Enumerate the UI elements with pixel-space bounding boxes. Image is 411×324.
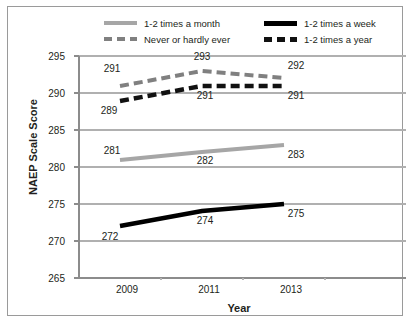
x-tick-label: 2011 [179, 284, 239, 295]
dashed-black-line-icon [264, 34, 297, 44]
y-tick-label: 265 [39, 274, 65, 284]
data-label: 292 [283, 61, 309, 71]
y-axis-tick-labels: 295 290 285 280 275 270 265 [35, 50, 65, 280]
data-label: 289 [96, 106, 122, 116]
legend-label: 1-2 times a month [144, 18, 220, 29]
chart-legend: 1-2 times a month 1-2 times a week Never… [96, 16, 396, 48]
y-axis-spine [74, 56, 79, 278]
data-label: 291 [192, 91, 218, 101]
plot-area: 291 293 292 289 291 291 281 282 283 272 … [72, 50, 406, 280]
data-label: 274 [192, 216, 218, 226]
y-tick-label: 270 [39, 237, 65, 247]
legend-label: 1-2 times a year [304, 34, 372, 45]
y-tick-label: 275 [39, 200, 65, 210]
x-tick-label: 2009 [97, 284, 157, 295]
legend-label: 1-2 times a week [304, 18, 376, 29]
y-tick-label: 285 [39, 126, 65, 136]
chart-frame: 1-2 times a month 1-2 times a week Never… [7, 6, 403, 316]
data-label: 283 [283, 150, 309, 160]
y-tick-label: 290 [39, 89, 65, 99]
x-axis-spine [79, 278, 406, 280]
data-label: 281 [99, 146, 125, 156]
solid-gray-line-icon [104, 18, 137, 28]
legend-item-never-or-hardly-ever[interactable]: Never or hardly ever [104, 32, 230, 46]
solid-black-line-icon [264, 18, 297, 28]
data-label: 293 [189, 52, 215, 62]
data-label: 282 [192, 156, 218, 166]
y-tick-label: 295 [39, 52, 65, 62]
data-label: 272 [97, 232, 123, 242]
dashed-gray-line-icon [104, 34, 137, 44]
legend-item-times-a-week[interactable]: 1-2 times a week [264, 16, 376, 30]
legend-label: Never or hardly ever [144, 34, 230, 45]
data-label: 291 [283, 91, 309, 101]
legend-item-times-a-year[interactable]: 1-2 times a year [264, 32, 372, 46]
y-tick-label: 280 [39, 163, 65, 173]
legend-item-times-a-month[interactable]: 1-2 times a month [104, 16, 220, 30]
data-label: 275 [283, 209, 309, 219]
chart-canvas [72, 50, 406, 280]
x-axis-title: Year [72, 302, 406, 314]
x-axis-tick-labels: 2009 2011 2013 [72, 284, 411, 298]
x-tick-label: 2013 [261, 284, 321, 295]
data-label: 291 [99, 64, 125, 74]
